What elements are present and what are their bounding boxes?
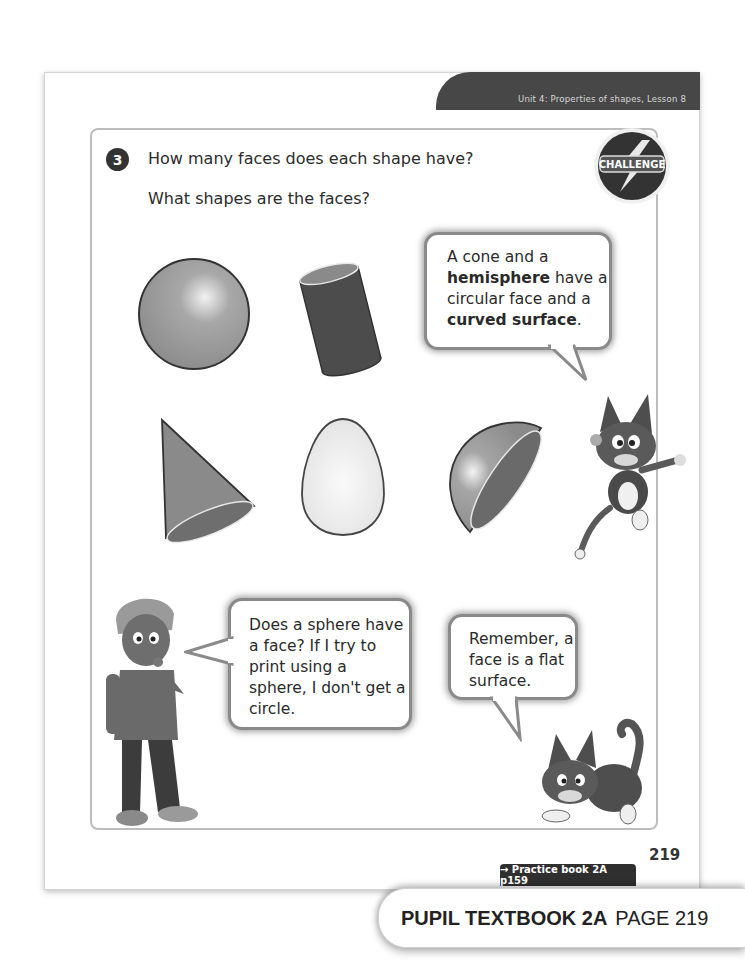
unit-header-tab: Unit 4: Properties of shapes, Lesson 8: [436, 72, 700, 110]
question-line-1: How many faces does each shape have?: [148, 149, 474, 168]
cone-shape: [158, 416, 258, 544]
bubble-text: A cone and a: [447, 248, 548, 266]
sphere-shape: [136, 256, 252, 372]
page-number: 219: [649, 846, 680, 864]
book-page-label: PUPIL TEXTBOOK 2A PAGE 219: [378, 888, 745, 948]
hemisphere-shape: [444, 416, 546, 536]
unit-label: Unit 4: Properties of shapes, Lesson 8: [518, 94, 686, 104]
boy-character-thinking: [96, 590, 206, 830]
speech-bubble-cone-hemisphere: A cone and a hemisphere have a circular …: [424, 232, 612, 350]
question-number: 3: [106, 148, 129, 171]
page-label: PAGE 219: [615, 907, 708, 930]
bubble-text: Does a sphere have a face? If I try to p…: [249, 616, 405, 718]
bubble-keyword-curved-surface: curved surface: [447, 311, 577, 329]
bubble-text: Remember, a face is a flat surface.: [469, 630, 573, 690]
bubble-tail: [548, 344, 592, 384]
question-line-2: What shapes are the faces?: [148, 189, 370, 208]
practice-book-link[interactable]: → Practice book 2A p159: [500, 864, 636, 886]
bubble-text: .: [577, 311, 582, 329]
speech-bubble-sphere-question: Does a sphere have a face? If I try to p…: [228, 598, 412, 730]
svg-text:CHALLENGE: CHALLENGE: [599, 159, 666, 170]
book-label: PUPIL TEXTBOOK 2A: [401, 907, 607, 930]
bubble-keyword-hemisphere: hemisphere: [447, 269, 550, 287]
bubble-tail: [490, 694, 526, 742]
challenge-badge-icon: CHALLENGE: [592, 126, 672, 206]
cat-character-playing: [534, 716, 654, 828]
cylinder-shape: [292, 258, 392, 378]
cat-character-jumping: [570, 392, 690, 562]
speech-bubble-face-reminder: Remember, a face is a flat surface.: [448, 614, 578, 700]
egg-shape: [298, 416, 388, 538]
